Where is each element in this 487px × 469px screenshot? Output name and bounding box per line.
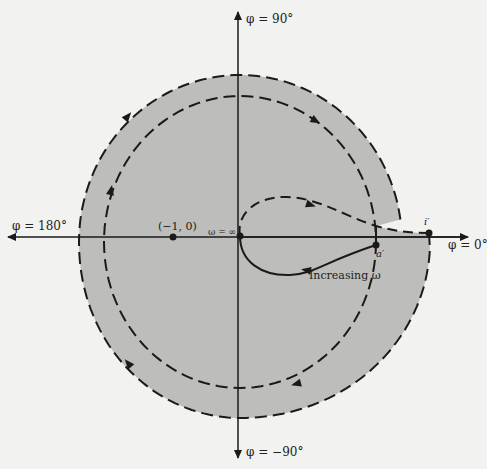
label-phi-90: φ = 90°	[246, 12, 293, 26]
label-a-prime: a′	[376, 248, 385, 259]
nyquist-diagram: φ = 90° φ = −90° φ = 180° φ = 0° (−1, 0)…	[0, 0, 487, 469]
label-critical-point: (−1, 0)	[158, 220, 197, 233]
label-phi-0: φ = 0°	[448, 238, 487, 252]
origin-dot	[237, 233, 244, 240]
label-increasing-omega: Increasing ω	[309, 269, 381, 282]
critical-point-dot	[170, 234, 177, 241]
label-phi-180: φ = 180°	[12, 219, 67, 233]
label-phi-minus-90: φ = −90°	[246, 445, 303, 459]
label-i-prime: i′	[424, 216, 430, 227]
label-omega-infinity: ω = ∞	[208, 227, 236, 237]
i-prime-dot	[426, 230, 433, 237]
diagram-canvas: φ = 90° φ = −90° φ = 180° φ = 0° (−1, 0)…	[0, 0, 487, 469]
